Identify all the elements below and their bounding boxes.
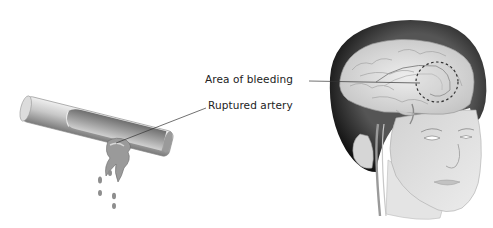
head-illustration <box>330 20 487 219</box>
blood-spill <box>98 138 131 209</box>
bleeding-area-marker <box>416 62 458 102</box>
label-area-of-bleeding: Area of bleeding <box>205 73 293 85</box>
diagram-canvas: Area of bleeding Ruptured artery <box>0 0 493 228</box>
illustration <box>0 0 493 228</box>
ruptured-artery-illustration <box>18 95 175 158</box>
label-ruptured-artery: Ruptured artery <box>208 99 293 111</box>
